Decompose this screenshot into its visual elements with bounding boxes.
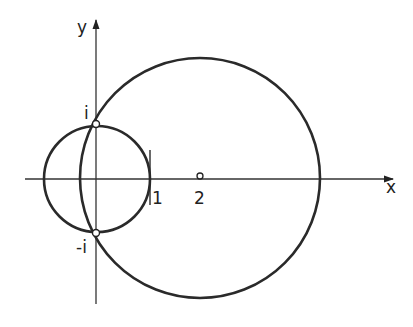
point-2: [197, 173, 203, 179]
label-i: i: [84, 103, 89, 123]
diagram-canvas: y x i -i 1 2: [0, 0, 413, 327]
x-axis-label: x: [386, 177, 396, 197]
point-i: [93, 121, 100, 128]
point-minus-i: [93, 230, 100, 237]
label-two: 2: [194, 188, 205, 208]
y-axis-label: y: [77, 17, 87, 37]
label-one: 1: [152, 188, 163, 208]
label-minus-i: -i: [76, 237, 87, 257]
